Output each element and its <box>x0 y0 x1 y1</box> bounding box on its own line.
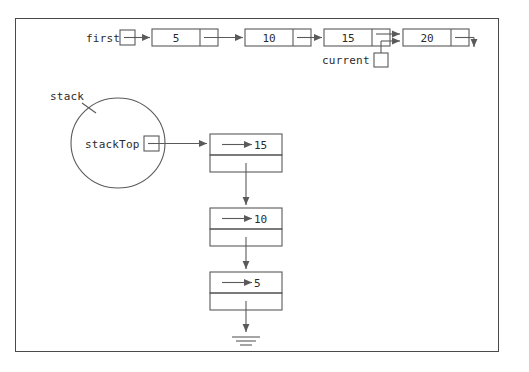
stack-top-label: stackTop <box>85 138 140 151</box>
list-node-value-2: 15 <box>324 32 372 45</box>
figure-canvas: first 5 10 15 20 current stack stackTop … <box>0 0 529 372</box>
first-pointer-label: first <box>86 32 120 45</box>
current-pointer-box <box>374 53 388 67</box>
stack-container-label: stack <box>50 90 84 103</box>
diagram-vector-layer <box>0 0 529 372</box>
list-node-value-1: 10 <box>245 32 293 45</box>
ground-symbol <box>232 337 260 345</box>
current-pointer-label: current <box>322 54 370 67</box>
list-node-value-3: 20 <box>403 32 451 45</box>
stack-node-value-0: 15 <box>254 139 278 152</box>
stack-node-value-2: 5 <box>254 277 278 290</box>
stack-node-value-1: 10 <box>254 213 278 226</box>
list-node-value-0: 5 <box>152 32 200 45</box>
